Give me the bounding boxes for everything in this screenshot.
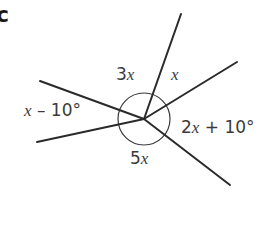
angle-label-3x: 3x xyxy=(116,66,134,83)
ray-upper-right xyxy=(144,62,237,119)
ray-lower-left xyxy=(37,119,144,142)
angle-label-x-minus-10: x – 10° xyxy=(24,102,81,119)
angle-label-var: x xyxy=(127,65,135,84)
angle-label-x: x xyxy=(171,66,179,83)
angle-label-rest: – 10° xyxy=(32,100,81,120)
angle-label-var: x xyxy=(171,65,179,84)
angle-label-var: x xyxy=(24,101,32,120)
angle-label-coef: 3 xyxy=(116,64,127,84)
angle-label-coef: 5 xyxy=(130,148,141,168)
angle-label-5x: 5x xyxy=(130,150,148,167)
angle-label-var: x xyxy=(141,149,149,168)
angle-label-coef: 2 xyxy=(181,117,192,137)
angle-label-2x-plus-10: 2x + 10° xyxy=(181,119,255,136)
angle-label-rest: + 10° xyxy=(199,117,254,137)
